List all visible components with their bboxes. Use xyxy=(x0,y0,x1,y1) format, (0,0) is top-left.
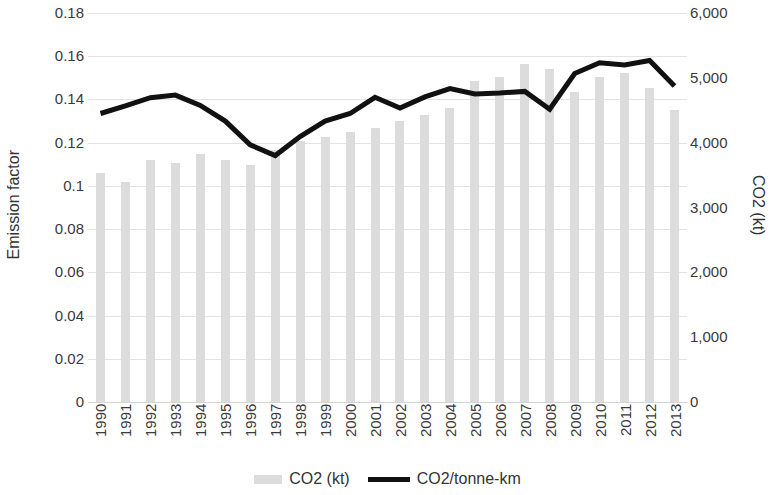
combo-chart: Emission factor 0.180.160.140.120.10.080… xyxy=(0,0,775,495)
bar-swatch-icon xyxy=(254,475,282,484)
left-axis-tick: 0.16 xyxy=(20,49,84,63)
x-axis-tick-label: 1991 xyxy=(117,404,133,460)
chart-legend: CO2 (kt) CO2/tonne-km xyxy=(0,466,775,492)
x-axis-tick-label: 2001 xyxy=(367,404,383,460)
x-axis-tick-label: 2000 xyxy=(342,404,358,460)
x-axis-tick-label: 1993 xyxy=(167,404,183,460)
left-axis-tick: 0.02 xyxy=(20,352,84,366)
x-axis-ticks: 1990199119921993199419951996199719981999… xyxy=(88,404,687,462)
x-axis-tick-label: 2010 xyxy=(592,404,608,460)
legend-label-co2-per-tonne-km: CO2/tonne-km xyxy=(417,470,521,488)
x-axis-tick-label: 2006 xyxy=(492,404,508,460)
x-axis-tick-label: 2004 xyxy=(442,404,458,460)
x-axis-tick-label: 1992 xyxy=(142,404,158,460)
left-axis-tick: 0.12 xyxy=(20,136,84,150)
x-axis-tick-label: 1994 xyxy=(192,404,208,460)
x-axis-tick-label: 1996 xyxy=(242,404,258,460)
left-axis-tick: 0.18 xyxy=(20,6,84,20)
x-axis-tick-label: 2012 xyxy=(642,404,658,460)
x-axis-tick-label: 1990 xyxy=(92,404,108,460)
left-axis-tick: 0.06 xyxy=(20,265,84,279)
right-axis-title-text: CO2 (kt) xyxy=(749,175,767,235)
line-swatch-icon xyxy=(368,477,410,482)
x-axis-tick-label: 2002 xyxy=(392,404,408,460)
left-axis-tick: 0.08 xyxy=(20,222,84,236)
left-axis-ticks: 0.180.160.140.120.10.080.060.040.020 xyxy=(20,0,84,410)
x-axis-tick-label: 2013 xyxy=(667,404,683,460)
legend-item-co2-per-tonne-km: CO2/tonne-km xyxy=(368,470,521,488)
right-axis-title: CO2 (kt) xyxy=(742,0,774,410)
legend-label-co2-kt: CO2 (kt) xyxy=(289,470,349,488)
plot-area xyxy=(88,13,687,402)
x-axis-tick-label: 2007 xyxy=(517,404,533,460)
line-path xyxy=(101,61,675,156)
x-axis-tick-label: 2011 xyxy=(617,404,633,460)
x-axis-tick-label: 2009 xyxy=(567,404,583,460)
left-axis-tick: 0 xyxy=(20,395,84,409)
left-axis-tick: 0.1 xyxy=(20,179,84,193)
x-axis-tick-label: 2003 xyxy=(417,404,433,460)
x-axis-tick-label: 1997 xyxy=(267,404,283,460)
gridline xyxy=(88,402,687,403)
left-axis-tick: 0.04 xyxy=(20,309,84,323)
x-axis-tick-label: 2008 xyxy=(542,404,558,460)
left-axis-tick: 0.14 xyxy=(20,92,84,106)
x-axis-tick-label: 2005 xyxy=(467,404,483,460)
line-series-co2-per-tonne-km xyxy=(88,13,687,402)
x-axis-tick-label: 1998 xyxy=(292,404,308,460)
legend-item-co2-kt: CO2 (kt) xyxy=(254,470,349,488)
x-axis-tick-label: 1995 xyxy=(217,404,233,460)
x-axis-tick-label: 1999 xyxy=(317,404,333,460)
